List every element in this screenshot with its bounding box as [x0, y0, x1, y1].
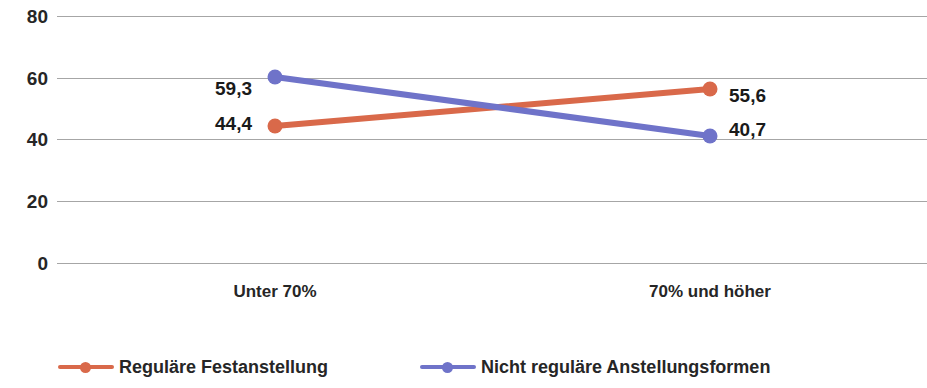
legend-label-orange: Reguläre Festanstellung: [119, 357, 328, 378]
y-axis-tick-60: 60: [2, 69, 48, 88]
y-axis-tick-0: 0: [2, 254, 48, 273]
y-axis-tick-labels: 80 60 40 20 0: [0, 0, 48, 270]
series-line-nicht-regulaere-anstellungsformen: [268, 70, 718, 144]
legend-item-nicht-regulaere-anstellungsformen[interactable]: Nicht reguläre Anstellungsformen: [420, 352, 770, 382]
y-axis-tick-40: 40: [2, 130, 48, 149]
legend-marker-blue-icon: [420, 360, 476, 374]
x-axis-tick-unter-70: Unter 70%: [175, 283, 375, 300]
legend-marker-orange-icon: [58, 360, 114, 374]
line-segment-blue: [275, 77, 710, 136]
x-axis-tick-70-und-hoeher: 70% und höher: [610, 283, 810, 300]
plot-area: 59,3 44,4 55,6 40,7: [57, 0, 927, 270]
data-label-blue-right: 40,7: [729, 120, 766, 139]
x-axis-tick-labels: Unter 70% 70% und höher: [57, 283, 927, 313]
y-axis-tick-80: 80: [2, 7, 48, 26]
chart-legend: Reguläre Festanstellung Nicht reguläre A…: [0, 352, 927, 388]
data-label-orange-left: 44,4: [215, 114, 252, 133]
data-point-blue-1: [703, 129, 718, 144]
data-point-blue-0: [268, 70, 283, 85]
data-label-orange-right: 55,6: [729, 86, 766, 105]
data-label-blue-left: 59,3: [215, 79, 252, 98]
data-point-orange-0: [268, 119, 283, 134]
legend-item-regulaere-festanstellung[interactable]: Reguläre Festanstellung: [58, 352, 328, 382]
y-axis-tick-20: 20: [2, 192, 48, 211]
series-plot: [57, 0, 927, 270]
line-chart: 80 60 40 20 0 59,3 44,4: [0, 0, 927, 388]
data-point-orange-1: [703, 82, 718, 97]
legend-label-blue: Nicht reguläre Anstellungsformen: [481, 357, 770, 378]
